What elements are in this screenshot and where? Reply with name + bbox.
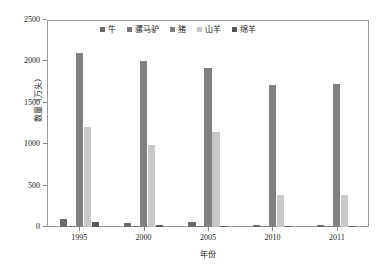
- x-tick-mark: [144, 227, 145, 231]
- bar-猪-2005: [204, 68, 211, 227]
- y-tick: 500: [0, 181, 47, 191]
- legend-swatch-icon: [127, 27, 132, 32]
- legend-label: 山羊: [205, 25, 221, 34]
- bar-牛-2011: [317, 225, 324, 227]
- bar-牛-2010: [253, 225, 260, 227]
- x-tick-label: 2010: [242, 233, 302, 242]
- x-tick-mark: [208, 227, 209, 231]
- x-tick-label: 2000: [114, 233, 174, 242]
- bar-山羊-2005: [212, 132, 219, 227]
- y-tick: 2000: [0, 56, 47, 66]
- legend-item-山羊[interactable]: 山羊: [197, 25, 221, 34]
- legend-label: 牛: [108, 25, 116, 34]
- y-tick: 1000: [0, 139, 47, 149]
- bar-骡马驴-2010: [261, 226, 268, 227]
- bar-绵羊-2011: [349, 226, 356, 227]
- x-tick-mark: [79, 227, 80, 231]
- legend-swatch-icon: [197, 27, 202, 32]
- legend-label: 猪: [178, 25, 186, 34]
- bar-猪-2000: [140, 61, 147, 227]
- x-tick-label: 2005: [178, 233, 238, 242]
- legend-swatch-icon: [170, 27, 175, 32]
- bar-chart-figure: 数量（万头） 05001000150020002500 199520002005…: [0, 0, 377, 270]
- x-tick-label: 1995: [49, 233, 109, 242]
- bar-绵羊-2000: [156, 225, 163, 227]
- legend-item-绵羊[interactable]: 绵羊: [232, 25, 256, 34]
- legend-item-牛[interactable]: 牛: [100, 25, 116, 34]
- y-tick-label: 2500: [24, 15, 40, 25]
- x-tick-mark: [272, 227, 273, 231]
- x-axis-title: 年份: [47, 248, 369, 259]
- y-tick: 0: [0, 222, 47, 232]
- legend-label: 骡马驴: [135, 25, 159, 34]
- y-tick-mark: [43, 102, 47, 103]
- bar-骡马驴-2000: [132, 226, 139, 227]
- y-tick-label: 1000: [24, 139, 40, 149]
- x-tick-label: 2011: [307, 233, 367, 242]
- bar-牛-1995: [60, 219, 67, 227]
- bar-山羊-2000: [148, 145, 155, 227]
- bar-山羊-2010: [277, 195, 284, 227]
- y-tick-label: 500: [28, 181, 40, 191]
- bar-骡马驴-2011: [325, 226, 332, 227]
- bar-猪-2010: [269, 85, 276, 227]
- y-tick-label: 2000: [24, 56, 40, 66]
- bar-绵羊-1995: [92, 222, 99, 227]
- bar-猪-2011: [333, 84, 340, 227]
- bar-骡马驴-2005: [196, 226, 203, 227]
- y-tick-mark: [43, 185, 47, 186]
- y-tick-label: 1500: [24, 98, 40, 108]
- bar-骡马驴-1995: [68, 226, 75, 227]
- bar-猪-1995: [76, 53, 83, 227]
- y-tick-mark: [43, 226, 47, 227]
- bar-山羊-1995: [84, 127, 91, 227]
- y-tick: 2500: [0, 15, 47, 25]
- y-tick-mark: [43, 19, 47, 20]
- bar-绵羊-2005: [220, 226, 227, 227]
- y-tick: 1500: [0, 98, 47, 108]
- y-tick-label: 0: [36, 222, 40, 232]
- chart-legend: 牛骡马驴猪山羊绵羊: [100, 23, 256, 36]
- x-tick-mark: [337, 227, 338, 231]
- legend-swatch-icon: [232, 27, 237, 32]
- legend-swatch-icon: [100, 27, 105, 32]
- bar-牛-2000: [124, 223, 131, 227]
- y-tick-mark: [43, 60, 47, 61]
- bar-牛-2005: [188, 222, 195, 227]
- legend-item-骡马驴[interactable]: 骡马驴: [127, 25, 159, 34]
- legend-label: 绵羊: [240, 25, 256, 34]
- bar-绵羊-2010: [285, 226, 292, 227]
- y-tick-mark: [43, 143, 47, 144]
- legend-item-猪[interactable]: 猪: [170, 25, 186, 34]
- bar-山羊-2011: [341, 195, 348, 227]
